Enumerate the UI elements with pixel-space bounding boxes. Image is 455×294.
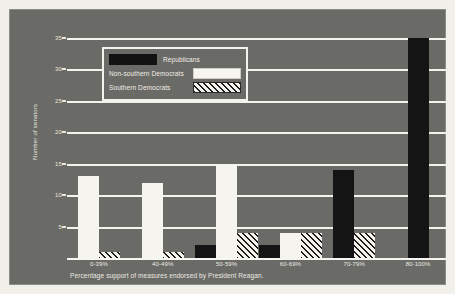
page-border [0, 0, 455, 294]
figure: Number of senators 5101520253035 0-39%40… [0, 0, 455, 294]
